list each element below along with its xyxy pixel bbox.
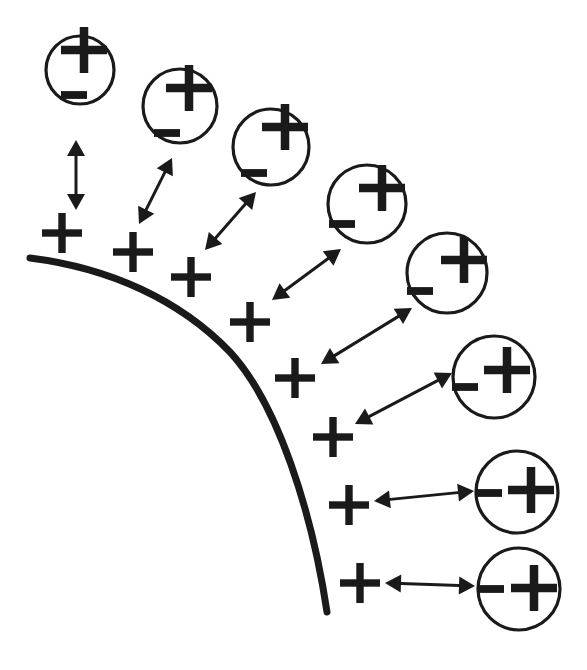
arrow-2-shaft [143, 166, 168, 216]
dipole-5-minus-bar [407, 287, 433, 295]
surface-charge-1-bar-v [58, 213, 65, 253]
arrow-7-shaft [383, 492, 465, 500]
dipole-8-minus-bar [478, 585, 504, 593]
arrow-8-shaft [394, 583, 466, 585]
dipole-4-minus [329, 220, 355, 228]
arrow-4-shaft [279, 254, 334, 295]
arrow-4-head-end [323, 249, 341, 266]
surface-charge-3 [171, 257, 211, 297]
dipole-3-minus [241, 169, 267, 177]
surface-charge-8-bar-v [356, 563, 363, 603]
arrow-8-head-start [385, 575, 401, 593]
dipole-3 [233, 104, 309, 185]
arrow-2 [138, 158, 173, 224]
dipole-7 [476, 451, 558, 533]
arrow-8 [385, 575, 475, 595]
dipole-7-minus-bar [476, 489, 502, 497]
dipole-4-circle [328, 165, 406, 243]
arrow-4 [272, 249, 341, 300]
dipole-1-minus [61, 91, 87, 99]
arrow-5 [321, 308, 412, 364]
diagram-canvas [0, 0, 587, 670]
dipole-8-minus [478, 585, 504, 593]
surface-charge-7-bar-v [345, 485, 352, 525]
dipole-1-minus-bar [61, 91, 87, 99]
surface-charge-5-bar-v [291, 358, 298, 398]
dipole-5-minus [407, 287, 433, 295]
dipole-6-minus-bar [452, 383, 478, 391]
arrow-5-shaft [328, 313, 404, 360]
surface-charge-8 [340, 563, 380, 603]
dipole-7-minus [476, 489, 502, 497]
dipole-4 [328, 165, 406, 243]
arrow-7-head-start [374, 490, 391, 508]
arrow-6 [355, 372, 452, 424]
arrow-7 [374, 484, 474, 509]
arrow-1 [67, 140, 85, 210]
surface-charge-6-bar-v [329, 417, 336, 457]
dipole-4-plus-bar-v [378, 165, 387, 211]
arrow-3 [205, 192, 256, 250]
arrow-7-head-end [457, 484, 474, 502]
dipole-6-plus-bar-v [503, 347, 512, 393]
surface-dipole-diagram [0, 0, 587, 670]
arrow-8-head-end [459, 576, 475, 594]
arrow-6-shaft [363, 377, 444, 420]
surface-charge-7 [329, 485, 369, 525]
dipole-5 [407, 233, 487, 313]
dipole-4-minus-bar [329, 220, 355, 228]
arrow-4-head-start [272, 283, 290, 300]
dipole-3-plus-bar-v [281, 104, 290, 150]
dipole-2-plus-bar-v [185, 65, 194, 111]
dipole-5-circle [407, 233, 487, 313]
dipole-2 [143, 65, 217, 143]
surface-charge-6 [313, 417, 353, 457]
arrow-3-shaft [211, 199, 250, 244]
surface-charge-4-bar-v [246, 302, 253, 342]
dipole-3-minus-bar [241, 169, 267, 177]
surface-charge-1 [42, 213, 82, 253]
surface-charge-2-bar-v [129, 232, 136, 272]
charged-surface-curve [30, 258, 327, 612]
arrow-1-head-end [67, 140, 85, 156]
dipole-8-plus-bar-v [530, 565, 539, 611]
surface-charge-5 [275, 358, 315, 398]
dipole-5-plus-bar-v [460, 237, 469, 283]
dipole-1-plus-bar-v [80, 27, 89, 73]
surface-charge-2 [113, 232, 153, 272]
dipole-6 [452, 336, 535, 418]
surface-charge-3-bar-v [187, 257, 194, 297]
arrow-1-head-start [67, 194, 85, 210]
dipole-8 [478, 548, 560, 630]
dipole-7-plus-bar-v [527, 467, 536, 513]
dipole-6-minus [452, 383, 478, 391]
surface-charge-4 [230, 302, 270, 342]
dipole-1 [46, 27, 114, 104]
dipole-6-circle [453, 336, 535, 418]
dipole-2-minus [154, 129, 180, 137]
dipole-2-minus-bar [154, 129, 180, 137]
